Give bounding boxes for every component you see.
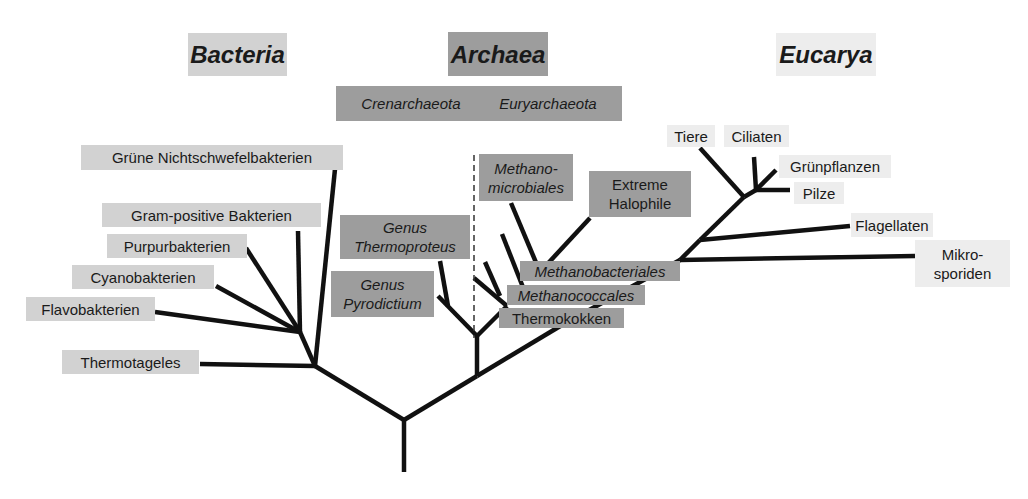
taxon-ciliaten: Ciliaten — [724, 125, 789, 147]
taxon-methanobacteriales: Methanobacteriales — [520, 261, 680, 281]
line-2: sporiden — [934, 264, 992, 283]
domain-eucarya: Eucarya — [776, 33, 876, 76]
taxon-gruene-nichtschwefelbakterien: Grüne Nichtschwefelbakterien — [81, 145, 343, 170]
line-1: Genus — [360, 275, 404, 294]
taxon-gruenpflanzen: Grünpflanzen — [779, 155, 891, 178]
line-2: Halophile — [609, 194, 672, 213]
taxon-genus-thermoproteus: Genus Thermoproteus — [340, 215, 470, 259]
domain-archaea: Archaea — [448, 32, 548, 76]
line-2: Pyrodictium — [343, 294, 421, 313]
line-2: Thermoproteus — [354, 237, 456, 256]
taxon-mikrosporiden: Mikro- sporiden — [915, 240, 1010, 287]
line-1: Genus — [383, 218, 427, 237]
line-1: Methano- — [494, 159, 557, 178]
euryarchaeota-label: Euryarchaeota — [499, 94, 597, 113]
taxon-gram-positive-bakterien: Gram-positive Bakterien — [102, 203, 321, 227]
line-1: Mikro- — [942, 245, 984, 264]
taxon-tiere: Tiere — [667, 125, 715, 147]
line-2: microbiales — [488, 178, 564, 197]
taxon-flagellaten: Flagellaten — [851, 213, 933, 237]
domain-bacteria: Bacteria — [188, 33, 287, 76]
taxon-flavobakterien: Flavobakterien — [26, 297, 155, 321]
archaea-kingdoms-bar: Crenarchaeota Euryarchaeota — [336, 86, 622, 121]
taxon-thermotageles: Thermotageles — [62, 350, 199, 374]
taxon-methanococcales: Methanococcales — [507, 285, 645, 305]
taxon-cyanobakterien: Cyanobakterien — [72, 265, 214, 289]
taxon-methanomicrobiales: Methano- microbiales — [479, 154, 573, 201]
line-1: Extreme — [612, 175, 668, 194]
taxon-purpurbakterien: Purpurbakterien — [107, 234, 247, 258]
taxon-thermokokken: Thermokokken — [499, 308, 624, 328]
taxon-genus-pyrodictium: Genus Pyrodictium — [331, 271, 434, 317]
crenarchaeota-label: Crenarchaeota — [361, 94, 460, 113]
taxon-extreme-halophile: Extreme Halophile — [589, 171, 691, 217]
taxon-pilze: Pilze — [794, 182, 844, 204]
